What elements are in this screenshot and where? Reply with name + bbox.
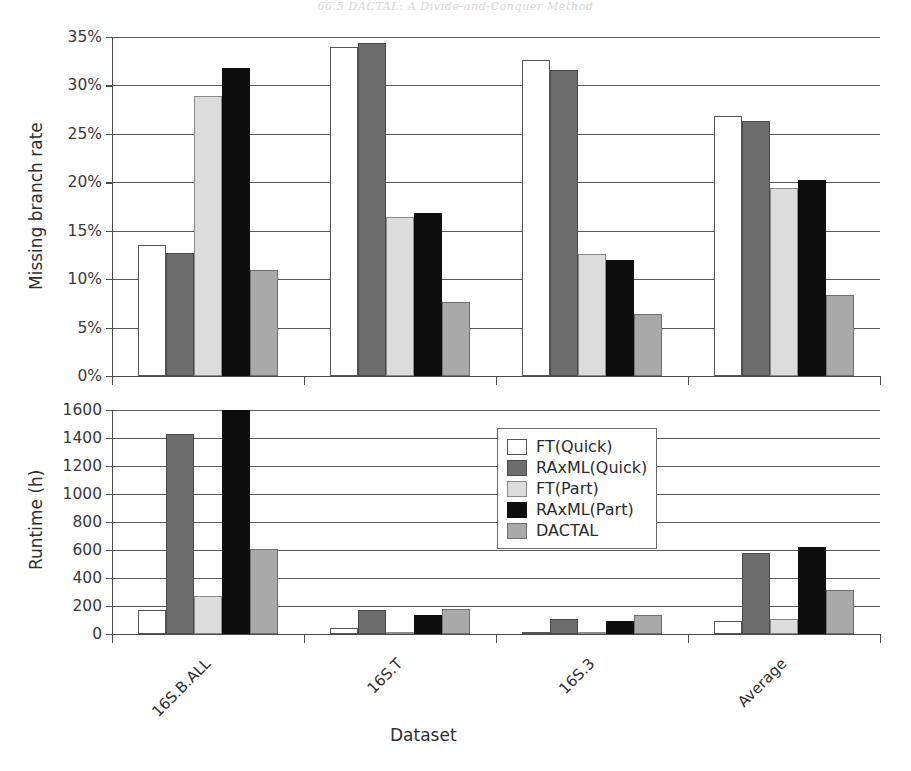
legend-item: RAxML(Part) <box>507 499 644 520</box>
legend-label: DACTAL <box>536 523 598 539</box>
y-tick-label: 600 <box>38 543 102 559</box>
legend-swatch-icon <box>507 481 527 497</box>
y-tick-label: 15% <box>38 224 102 240</box>
x-tick-mark <box>304 376 305 385</box>
bar <box>634 615 662 634</box>
x-tick-mark <box>496 634 497 643</box>
bar <box>442 302 470 376</box>
bar <box>358 610 386 635</box>
legend-swatch-icon <box>507 502 527 518</box>
bar <box>138 245 166 376</box>
bar <box>634 314 662 376</box>
x-axis-title-dataset: Dataset <box>390 725 457 745</box>
legend-swatch-icon <box>507 523 527 539</box>
y-tick-label: 0% <box>38 369 102 385</box>
runtime-chart: Runtime (h) 0200400600800100012001400160… <box>0 400 911 771</box>
bar <box>606 621 634 634</box>
bar <box>138 610 166 635</box>
y-axis-title-missing-branch-rate: Missing branch rate <box>26 122 46 290</box>
bar <box>166 434 194 634</box>
bar <box>194 96 222 376</box>
bar <box>414 615 442 634</box>
bar <box>714 621 742 634</box>
legend-item: FT(Part) <box>507 478 644 499</box>
chart-legend: FT(Quick)RAxML(Quick)FT(Part)RAxML(Part)… <box>497 428 657 549</box>
x-category-label: 16S.3 <box>444 655 598 771</box>
bar <box>714 116 742 376</box>
x-tick-mark <box>112 376 113 385</box>
y-tick-label: 200 <box>38 599 102 615</box>
bar <box>250 549 278 634</box>
bar <box>742 553 770 634</box>
missing-branch-rate-chart: Missing branch rate 0%5%10%15%20%25%30%3… <box>0 0 911 400</box>
legend-label: FT(Part) <box>536 481 599 497</box>
bar <box>166 253 194 376</box>
bar <box>358 43 386 376</box>
legend-swatch-icon <box>507 460 527 476</box>
bar <box>414 213 442 376</box>
bar <box>222 68 250 376</box>
legend-label: FT(Quick) <box>536 439 612 455</box>
y-tick-label: 1400 <box>38 431 102 447</box>
y-tick-label: 1200 <box>38 459 102 475</box>
gridline <box>112 37 880 38</box>
bar <box>742 121 770 376</box>
bar <box>550 619 578 634</box>
bar <box>522 60 550 376</box>
x-tick-mark <box>880 376 881 385</box>
bar <box>606 260 634 376</box>
bar <box>550 70 578 376</box>
y-axis-line-bottom <box>112 410 113 640</box>
y-tick-label: 400 <box>38 571 102 587</box>
bar <box>798 547 826 634</box>
legend-item: DACTAL <box>507 520 644 541</box>
x-tick-mark <box>688 376 689 385</box>
bar <box>250 270 278 376</box>
bar <box>798 180 826 376</box>
bar <box>442 609 470 634</box>
y-tick-label: 0 <box>38 627 102 643</box>
bar <box>826 295 854 376</box>
x-category-label: 16S.T <box>252 655 406 771</box>
y-tick-label: 25% <box>38 127 102 143</box>
x-tick-mark <box>688 634 689 643</box>
legend-item: RAxML(Quick) <box>507 457 644 478</box>
missing-branch-rate-plot-area <box>112 37 880 376</box>
bar <box>330 47 358 376</box>
x-category-label: Average <box>636 655 790 771</box>
legend-label: RAxML(Part) <box>536 502 634 518</box>
y-tick-label: 35% <box>38 30 102 46</box>
bar <box>826 590 854 634</box>
y-tick-label: 30% <box>38 78 102 94</box>
bar <box>386 217 414 376</box>
x-tick-mark <box>112 634 113 643</box>
bar <box>222 410 250 634</box>
y-tick-label: 5% <box>38 321 102 337</box>
x-tick-mark <box>304 634 305 643</box>
y-tick-label: 800 <box>38 515 102 531</box>
runtime-plot-area <box>112 410 880 634</box>
legend-item: FT(Quick) <box>507 436 644 457</box>
x-category-label: 16S.B.ALL <box>60 655 214 771</box>
bar <box>770 619 798 634</box>
legend-label: RAxML(Quick) <box>536 460 647 476</box>
bar <box>578 254 606 376</box>
y-tick-label: 20% <box>38 175 102 191</box>
bar <box>770 188 798 376</box>
y-tick-label: 10% <box>38 272 102 288</box>
y-tick-label: 1000 <box>38 487 102 503</box>
legend-swatch-icon <box>507 439 527 455</box>
y-axis-line-top <box>112 37 113 382</box>
x-tick-mark <box>496 376 497 385</box>
bar <box>194 596 222 634</box>
y-tick-label: 1600 <box>38 403 102 419</box>
x-tick-mark <box>880 634 881 643</box>
